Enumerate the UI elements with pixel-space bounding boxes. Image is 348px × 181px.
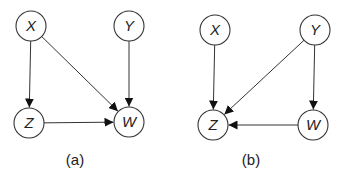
edge-y-to-w — [313, 45, 314, 110]
edge-x-to-z — [213, 45, 214, 110]
causal-graphs-canvas: XYZW (a) XYZW (b) — [0, 0, 348, 181]
node-w: W — [114, 107, 144, 137]
edge-x-to-z — [29, 41, 30, 108]
node-y: Y — [114, 11, 144, 41]
graph-b-caption: (b) — [242, 151, 260, 168]
node-w: W — [298, 110, 328, 140]
node-y: Y — [300, 15, 330, 45]
node-label: W — [122, 113, 138, 130]
graph-b-edges — [213, 40, 314, 125]
graph-a-nodes: XYZW — [14, 11, 144, 138]
node-x: X — [200, 15, 230, 45]
node-label: Y — [310, 21, 321, 38]
edge-x-to-w — [42, 36, 118, 111]
edge-z-to-w — [44, 122, 114, 123]
node-label: Z — [207, 116, 218, 133]
graph-a-edges — [29, 36, 129, 122]
node-x: X — [16, 11, 46, 41]
node-label: W — [306, 116, 322, 133]
node-z: Z — [14, 108, 44, 138]
node-label: Y — [124, 17, 135, 34]
node-label: X — [209, 21, 221, 38]
graph-a: XYZW (a) — [14, 11, 144, 168]
graph-a-caption: (a) — [66, 151, 84, 168]
edge-y-to-z — [224, 40, 304, 114]
node-label: Z — [23, 114, 34, 131]
graph-b: XYZW (b) — [198, 15, 330, 168]
node-z: Z — [198, 110, 228, 140]
node-label: X — [25, 17, 37, 34]
